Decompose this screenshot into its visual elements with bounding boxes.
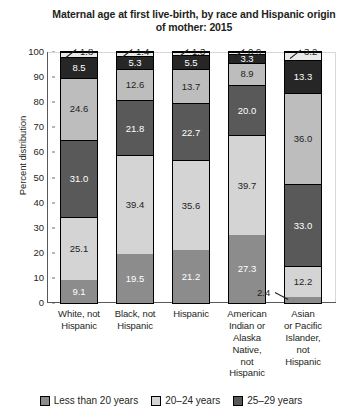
chart-title-line1: Maternal age at first live-birth, by rac… <box>52 8 304 20</box>
bar-segment-value: 12.6 <box>126 80 145 90</box>
legend-less-than-20-swatch <box>40 396 50 406</box>
legend-20-24-swatch <box>151 396 161 406</box>
legend-25-29-label: 25–29 years <box>247 396 302 406</box>
bar-segment-value: 25.1 <box>70 244 89 254</box>
y-tick-label-40: 40 <box>8 198 44 208</box>
legend-less-than-20[interactable]: Less than 20 years <box>40 396 139 406</box>
y-tick-label-20: 20 <box>8 248 44 258</box>
bar-segment[interactable]: 35.6 <box>173 160 209 249</box>
callout-hispanic-40plus: 1.3 <box>192 47 205 57</box>
bar-segment-value: 36.0 <box>294 134 313 144</box>
bar-segment-value: 8.9 <box>240 69 253 79</box>
legend-less-than-20-label: Less than 20 years <box>54 396 139 406</box>
bar-segment[interactable]: 9.1 <box>61 280 97 303</box>
bar-segment[interactable]: 21.2 <box>173 250 209 303</box>
y-tick-label-30: 30 <box>8 223 44 233</box>
bar-segment-value: 5.3 <box>128 58 141 68</box>
bar-segment[interactable]: 8.5 <box>61 57 97 78</box>
bar-hispanic[interactable]: 21.235.622.713.75.5 <box>173 52 209 303</box>
bar-segment-value: 8.5 <box>72 63 85 73</box>
legend-25-29[interactable]: 25–29 years <box>233 396 302 406</box>
bar-segment-value: 5.5 <box>184 58 197 68</box>
callout-api-under20: 2.4 <box>257 288 270 298</box>
bar-segment[interactable]: 13.3 <box>285 60 321 93</box>
bar-segment[interactable]: 24.6 <box>61 78 97 140</box>
callout-api-40plus: 3.2 <box>304 47 317 57</box>
x-axis-label-4: Asianor PacificIslander,notHispanic <box>267 308 339 367</box>
bar-segment[interactable]: 22.7 <box>173 103 209 160</box>
bar-segment-value: 22.7 <box>182 128 201 138</box>
bar-segment-value: 24.6 <box>70 104 89 114</box>
bar-segment-value: 12.2 <box>294 277 313 287</box>
bar-segment[interactable]: 39.4 <box>117 155 153 254</box>
y-tick-label-50: 50 <box>8 173 44 183</box>
y-tick-label-70: 70 <box>8 123 44 133</box>
callout-white-40plus: 1.8 <box>80 47 93 57</box>
legend-20-24[interactable]: 20–24 years <box>151 396 220 406</box>
y-tick-label-0: 0 <box>8 298 44 308</box>
bar-black-not-hispanic[interactable]: 19.539.421.812.65.3 <box>117 52 153 303</box>
y-tick-label-90: 90 <box>8 72 44 82</box>
bar-segment[interactable]: 20.0 <box>229 85 265 135</box>
y-axis-ticks: 1009080706050403020100 <box>8 52 44 303</box>
callout-aian-40plus: 0.9 <box>248 47 261 57</box>
bar-segment[interactable]: 13.7 <box>173 69 209 103</box>
bar-segment[interactable]: 19.5 <box>117 254 153 303</box>
bar-segment[interactable] <box>285 297 321 303</box>
bar-group: 9.125.131.024.68.519.539.421.812.65.321.… <box>47 52 336 303</box>
bar-segment[interactable]: 12.2 <box>285 266 321 297</box>
bar-segment[interactable]: 31.0 <box>61 140 97 218</box>
bar-segment-value: 21.8 <box>126 124 145 134</box>
bar-segment[interactable]: 39.7 <box>229 135 265 235</box>
bar-segment-value: 20.0 <box>238 106 257 116</box>
bar-segment-value: 35.6 <box>182 201 201 211</box>
bar-asian-pacific-islander[interactable]: 12.233.036.013.3 <box>285 52 321 303</box>
bar-segment[interactable]: 33.0 <box>285 184 321 267</box>
chart-legend: Less than 20 years20–24 years25–29 years <box>0 392 342 409</box>
bar-segment-value: 9.1 <box>72 287 85 297</box>
y-tick-label-10: 10 <box>8 273 44 283</box>
bar-segment-value: 27.3 <box>238 264 257 274</box>
callout-black-40plus: 1.4 <box>136 47 149 57</box>
bar-segment-value: 33.0 <box>294 221 313 231</box>
chart-title: Maternal age at first live-birth, by rac… <box>52 8 336 35</box>
bar-segment[interactable]: 25.1 <box>61 217 97 280</box>
bar-segment[interactable]: 21.8 <box>117 100 153 155</box>
bar-segment-value: 13.3 <box>294 72 313 82</box>
bar-segment[interactable]: 36.0 <box>285 93 321 183</box>
bar-segment-value: 31.0 <box>70 174 89 184</box>
chart-container: Maternal age at first live-birth, by rac… <box>0 0 342 409</box>
legend-20-24-label: 20–24 years <box>165 396 220 406</box>
bar-segment[interactable]: 12.6 <box>117 69 153 101</box>
bar-segment[interactable]: 8.9 <box>229 63 265 85</box>
bar-american-indian-alaska-native[interactable]: 27.339.720.08.93.3 <box>229 52 265 303</box>
bar-segment-value: 21.2 <box>182 272 201 282</box>
y-tick-label-80: 80 <box>8 97 44 107</box>
bar-segment-value: 19.5 <box>126 274 145 284</box>
bar-segment-value: 13.7 <box>182 82 201 92</box>
y-tick-label-60: 60 <box>8 148 44 158</box>
legend-25-29-swatch <box>233 396 243 406</box>
bar-segment-value: 39.4 <box>126 200 145 210</box>
bar-white-not-hispanic[interactable]: 9.125.131.024.68.5 <box>61 52 97 303</box>
bar-segment-value: 39.7 <box>238 181 257 191</box>
y-tick-label-100: 100 <box>8 47 44 57</box>
